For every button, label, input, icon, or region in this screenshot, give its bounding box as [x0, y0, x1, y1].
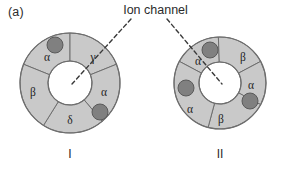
receptor-1-subunit-label-5: β: [30, 86, 36, 99]
receptor-2-binding-site-3[interactable]: [242, 93, 258, 109]
receptor-2-subunit-label-5: α: [187, 103, 193, 115]
receptor-1-subunit-label-1: α: [44, 51, 50, 63]
receptor-2: αβαβα: [167, 19, 266, 129]
receptor-1: αγαδβ: [20, 19, 131, 133]
receptor-1-binding-site-3[interactable]: [92, 104, 108, 120]
receptor-diagram-svg: αγαδβαβαβα: [0, 0, 287, 176]
receptor-2-binding-site-5[interactable]: [178, 80, 194, 96]
receptor-2-subunit-label-3: α: [248, 79, 254, 91]
receptor-2-subunit-label-4: β: [218, 113, 224, 126]
receptor-2-subunit-label-2: β: [240, 51, 246, 64]
ion-channel-figure: (a) Ion channel αγαδβαβαβα I II: [0, 0, 287, 176]
receptor-2-numeral: II: [200, 147, 240, 161]
receptor-1-subunit-label-4: δ: [67, 114, 72, 126]
receptor-2-binding-site-1[interactable]: [202, 42, 218, 58]
receptor-1-numeral: I: [50, 147, 90, 161]
receptor-1-subunit-label-3: α: [101, 86, 107, 98]
